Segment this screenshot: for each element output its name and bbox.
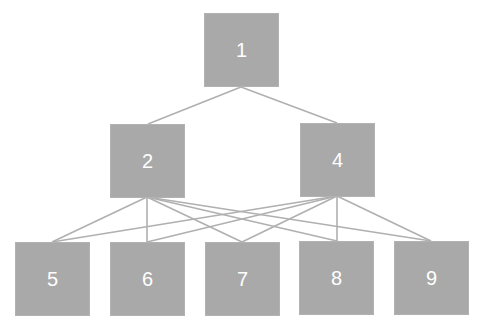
node-label: 2	[142, 150, 153, 173]
edge-1-2	[148, 87, 241, 124]
node-label: 4	[332, 149, 343, 172]
node-5: 5	[15, 242, 90, 316]
node-9: 9	[394, 241, 469, 315]
node-label: 5	[47, 268, 58, 291]
node-1: 1	[204, 13, 279, 87]
node-label: 9	[426, 267, 437, 290]
node-4: 4	[300, 123, 375, 197]
node-label: 6	[142, 268, 153, 291]
edge-4-5	[52, 196, 337, 242]
node-8: 8	[299, 241, 374, 315]
node-label: 7	[237, 268, 248, 291]
node-label: 8	[331, 267, 342, 290]
node-2: 2	[110, 124, 185, 198]
node-7: 7	[205, 242, 280, 316]
edge-2-5	[52, 197, 147, 242]
node-label: 1	[236, 39, 247, 62]
edge-1-4	[241, 87, 337, 123]
node-6: 6	[110, 242, 185, 316]
